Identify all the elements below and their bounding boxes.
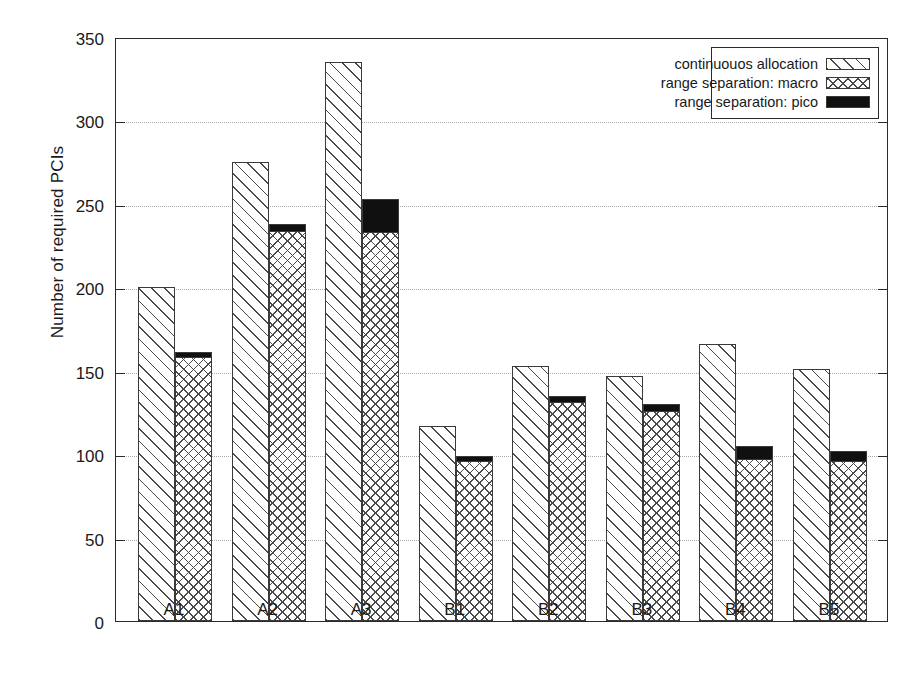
y-tick-label: 100 <box>64 448 104 465</box>
bar-segment-pico <box>549 396 586 403</box>
y-tick-label: 50 <box>64 532 104 549</box>
bar-range-separation-stack <box>362 199 399 621</box>
bar-segment-macro <box>269 231 306 621</box>
bar-range-separation-stack <box>549 396 586 621</box>
bar-segment-pico <box>362 199 399 232</box>
bar-continuous-allocation <box>699 344 736 621</box>
bar-segment-pico <box>830 451 867 461</box>
bar-range-separation-stack <box>736 446 773 621</box>
legend-item: continuouos allocation <box>720 54 870 73</box>
legend-label: continuouos allocation <box>675 56 819 72</box>
bar-continuous-allocation <box>419 426 456 621</box>
chart-legend: continuouos allocation range separation:… <box>711 47 879 119</box>
y-axis-label: Number of required PCIs <box>48 122 68 362</box>
legend-label: range separation: pico <box>675 94 819 110</box>
diagonal-hatch-swatch <box>826 58 870 70</box>
y-tick-label: 150 <box>64 365 104 382</box>
x-tick-label: A2 <box>223 600 313 620</box>
bar-continuous-allocation <box>325 62 362 621</box>
bar-segment-macro <box>175 357 212 621</box>
x-tick-label: B5 <box>784 600 874 620</box>
x-tick-label: B3 <box>597 600 687 620</box>
y-tick-label: 350 <box>64 31 104 48</box>
x-tick-label: A1 <box>129 600 219 620</box>
bar-segment-pico <box>269 224 306 231</box>
bar-range-separation-stack <box>456 456 493 621</box>
x-tick-label: B1 <box>410 600 500 620</box>
legend-item: range separation: pico <box>720 92 870 111</box>
bar-range-separation-stack <box>830 451 867 621</box>
bar-continuous-allocation <box>793 369 830 621</box>
legend-item: range separation: macro <box>720 73 870 92</box>
y-tick-label: 0 <box>64 615 104 632</box>
bar-continuous-allocation <box>512 366 549 621</box>
bar-segment-macro <box>736 459 773 621</box>
bar-segment-pico <box>643 404 680 411</box>
bar-segment-macro <box>830 461 867 621</box>
bar-chart-figure: Number of required PCIs 0501001502002503… <box>0 0 919 697</box>
solid-black-swatch <box>826 96 870 108</box>
bar-segment-pico <box>736 446 773 459</box>
cross-hatch-swatch <box>826 77 870 89</box>
bar-continuous-allocation <box>232 162 269 621</box>
bar-segment-macro <box>362 232 399 621</box>
y-tick-label: 300 <box>64 114 104 131</box>
bar-range-separation-stack <box>643 404 680 621</box>
bar-range-separation-stack <box>175 352 212 621</box>
bar-continuous-allocation <box>606 376 643 621</box>
bar-segment-pico <box>175 352 212 357</box>
bar-segment-macro <box>456 461 493 621</box>
x-tick-label: B4 <box>690 600 780 620</box>
bar-segment-macro <box>549 402 586 621</box>
x-tick-label: A3 <box>316 600 406 620</box>
y-tick-label: 200 <box>64 281 104 298</box>
bar-segment-macro <box>643 411 680 621</box>
bar-continuous-allocation <box>138 287 175 621</box>
bar-range-separation-stack <box>269 224 306 621</box>
bar-series-container <box>116 39 887 621</box>
bar-segment-pico <box>456 456 493 461</box>
legend-label: range separation: macro <box>661 75 818 91</box>
plot-area: 050100150200250300350 <box>115 38 888 622</box>
x-tick-label: B2 <box>503 600 593 620</box>
y-tick-label: 250 <box>64 198 104 215</box>
